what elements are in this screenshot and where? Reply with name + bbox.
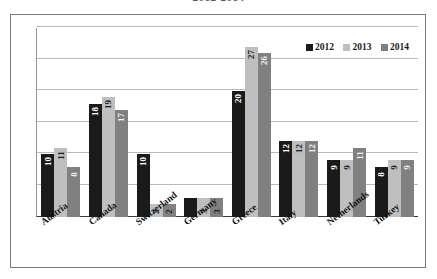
chart-title: 2012-2014 (0, 0, 437, 7)
bar-Italy-2014[interactable]: 12 (305, 141, 318, 217)
bar-value-label: 27 (247, 50, 256, 59)
bar-Canada-2013[interactable]: 19 (102, 97, 115, 217)
bar-group: 333 (180, 28, 228, 217)
bar-Greece-2012[interactable]: 20 (232, 91, 245, 217)
bar-Italy-2012[interactable]: 12 (279, 141, 292, 217)
bar-Italy-2013[interactable]: 12 (292, 141, 305, 217)
legend-label: 2014 (390, 42, 409, 52)
bar-group: 181917 (85, 28, 133, 217)
bar-value-label: 17 (117, 113, 126, 122)
bar-Canada-2012[interactable]: 18 (89, 104, 102, 217)
bar-value-label: 19 (104, 100, 113, 109)
bar-group: 121212 (275, 28, 323, 217)
bar-group: 202726 (228, 28, 276, 217)
bar-Greece-2013[interactable]: 27 (245, 47, 258, 217)
bar-value-label: 8 (69, 172, 78, 177)
bar-Canada-2014[interactable]: 17 (115, 110, 128, 217)
bar-value-label: 8 (377, 172, 386, 177)
chart-legend: 201220132014 (306, 42, 410, 52)
legend-swatch-icon (343, 44, 350, 51)
bar-Austria-2014[interactable]: 8 (67, 167, 80, 217)
bar-value-label: 9 (403, 166, 412, 171)
bar-group: 899 (370, 28, 418, 217)
bar-value-label: 11 (355, 151, 364, 160)
bar-value-label: 10 (43, 157, 52, 166)
bar-value-label: 9 (329, 166, 338, 171)
bar-value-label: 20 (234, 94, 243, 103)
legend-swatch-icon (306, 44, 313, 51)
bar-value-label: 3 (212, 209, 221, 214)
bars-layer: 1011818191710223332027261212129911899 (37, 28, 418, 217)
chart-frame: 201220132014 101181819171022333202726121… (10, 14, 426, 268)
bar-value-label: 11 (56, 151, 65, 160)
x-axis-labels: AustriaCanadaSwitzerlandGermanyGreeceIta… (37, 219, 418, 267)
bar-value-label: 18 (91, 107, 100, 116)
gridline (37, 26, 418, 27)
bar-value-label: 12 (307, 144, 316, 153)
legend-label: 2013 (353, 42, 372, 52)
legend-item-2014[interactable]: 2014 (381, 42, 410, 52)
bar-value-label: 2 (165, 209, 174, 214)
bar-group: 10118 (37, 28, 85, 217)
legend-swatch-icon (381, 44, 388, 51)
bar-value-label: 9 (390, 166, 399, 171)
legend-item-2012[interactable]: 2012 (306, 42, 335, 52)
bar-value-label: 26 (260, 56, 269, 65)
bar-Greece-2014[interactable]: 26 (258, 53, 271, 217)
bar-Turkey-2014[interactable]: 9 (401, 160, 414, 217)
bar-value-label: 9 (342, 166, 351, 171)
bar-value-label: 12 (294, 144, 303, 153)
legend-label: 2012 (315, 42, 334, 52)
legend-item-2013[interactable]: 2013 (343, 42, 372, 52)
bar-value-label: 12 (281, 144, 290, 153)
bar-value-label: 10 (139, 157, 148, 166)
